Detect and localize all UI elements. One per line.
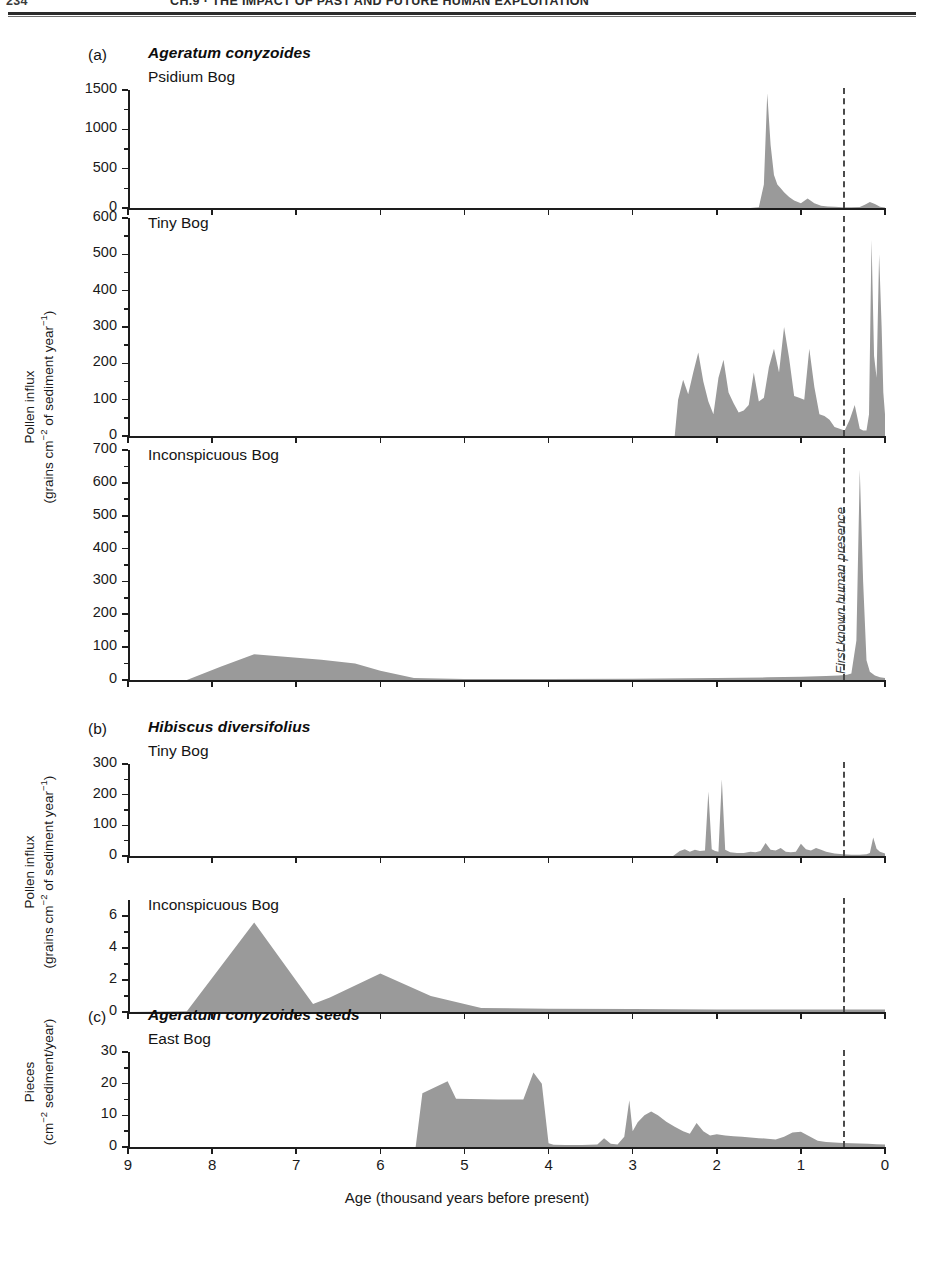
- x-tick-label-1: 1: [781, 1157, 821, 1172]
- species-name-2: Ageratum conyzoides seeds: [148, 1006, 360, 1024]
- species-name-1: Hibiscus diversifolius: [148, 718, 310, 736]
- header-rule: [8, 12, 916, 15]
- series-area-c1: [0, 22, 934, 1151]
- multi-panel-figure: 050010001500Psidium Bog01002003004005006…: [0, 22, 934, 1272]
- human-presence-line-c1: [843, 1050, 845, 1147]
- x-tick-label-9: 9: [108, 1157, 148, 1172]
- y-axis-title-0: Pollen influx(grains cm−2 of sediment ye…: [22, 192, 57, 622]
- running-head-title: CH.9 · THE IMPACT OF PAST AND FUTURE HUM…: [170, 0, 589, 8]
- page-folio: 234: [6, 0, 28, 8]
- species-name-0: Ageratum conyzoides: [148, 44, 311, 62]
- x-tick-label-5: 5: [444, 1157, 484, 1172]
- x-tick-label-3: 3: [613, 1157, 653, 1172]
- panel-letter-c: (c): [88, 1008, 106, 1026]
- series-polygon-c1: [128, 1073, 885, 1147]
- site-label-c1: East Bog: [148, 1030, 211, 1048]
- x-tick-label-4: 4: [529, 1157, 569, 1172]
- x-tick-label-7: 7: [276, 1157, 316, 1172]
- human-presence-label: First known human presence: [833, 507, 848, 674]
- x-tick-label-0: 0: [865, 1157, 905, 1172]
- x-tick-label-6: 6: [360, 1157, 400, 1172]
- panel-letter-b: (b): [88, 720, 107, 738]
- y-axis-title-1: Pollen influx(grains cm−2 of sediment ye…: [22, 722, 57, 1022]
- x-tick-label-8: 8: [192, 1157, 232, 1172]
- figure-page: 234 CH.9 · THE IMPACT OF PAST AND FUTURE…: [0, 0, 934, 1275]
- panel-letter-a: (a): [88, 46, 107, 64]
- y-axis-title-2: Pieces(cm−2 sediment/year): [22, 1002, 57, 1162]
- x-axis-title: Age (thousand years before present): [0, 1189, 934, 1206]
- x-tick-label-2: 2: [697, 1157, 737, 1172]
